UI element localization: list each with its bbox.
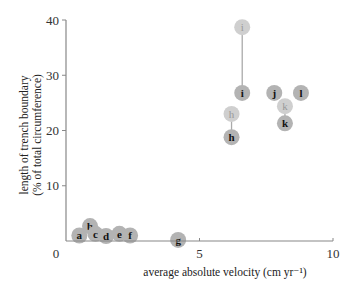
x-axis-title: average absolute velocity (cm yr⁻¹) [143, 266, 307, 279]
connector-lines [232, 27, 285, 137]
point-label: f [128, 229, 132, 241]
y-axis-title-line1: length of trench boundary [18, 75, 31, 194]
data-point-k: k [277, 115, 293, 131]
point-label: h [229, 108, 235, 120]
y-axis-ticks: 10203040 [46, 13, 66, 194]
data-point-i: i [234, 85, 250, 101]
point-label: i [241, 21, 244, 33]
data-point-h: h [224, 129, 240, 145]
y-tick-label: 30 [46, 68, 59, 83]
scatter-chart: hikabcdefghijkl 10203040 0510 average ab… [0, 0, 360, 283]
point-label: d [103, 230, 109, 242]
data-point-k-ghost: k [277, 98, 293, 114]
data-point-j: j [266, 85, 282, 101]
point-label: c [93, 228, 98, 240]
data-point-l: l [293, 85, 309, 101]
point-label: l [299, 87, 302, 99]
point-label: a [77, 229, 83, 241]
y-tick-label: 20 [46, 123, 59, 138]
data-point-g: g [170, 232, 186, 248]
y-tick-label: 10 [46, 178, 59, 193]
point-label: e [117, 228, 122, 240]
x-tick-label: 10 [327, 246, 340, 261]
point-label: j [271, 87, 276, 99]
y-tick-label: 40 [46, 13, 59, 28]
point-label: k [282, 117, 289, 129]
x-tick-label: 5 [196, 246, 203, 261]
point-label: k [282, 100, 288, 112]
data-point-d: d [98, 228, 114, 244]
point-label: h [228, 131, 234, 143]
data-point-h-ghost: h [224, 106, 240, 122]
data-point-i-ghost: i [234, 19, 250, 35]
y-axis-title-line2: (% of total circumference) [31, 74, 44, 196]
x-tick-label: 0 [53, 246, 60, 261]
point-label: g [175, 234, 181, 246]
data-points: hikabcdefghijkl [71, 19, 309, 248]
point-label: i [241, 87, 244, 99]
